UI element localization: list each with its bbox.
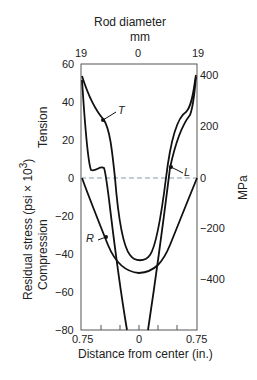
- series-label-l: L: [184, 166, 190, 178]
- ylabel-num: 10: [21, 168, 35, 185]
- y-tick-neg40: −40: [55, 248, 74, 260]
- y-tick-40: 40: [62, 96, 74, 108]
- ylabel-suffix: ): [21, 159, 35, 163]
- y-tick-neg20: −20: [55, 210, 74, 222]
- y-right-tick-neg200: −200: [200, 222, 225, 234]
- y-tick-60: 60: [62, 58, 74, 70]
- x-tick-center: 0: [136, 333, 142, 345]
- y-tick-20: 20: [62, 134, 74, 146]
- x-tick-left: 0.75: [72, 333, 93, 345]
- y-tick-neg60: −60: [55, 286, 74, 298]
- y-axis-title: Residual stress (psi × 103): [18, 159, 35, 300]
- series-label-r: R: [86, 232, 94, 244]
- series-label-t: T: [118, 104, 125, 116]
- plot-area: [0, 0, 257, 380]
- region-label-compression: Compression: [36, 219, 50, 290]
- y-tick-0: 0: [68, 172, 74, 184]
- y-right-tick-200: 200: [200, 120, 218, 132]
- y-right-axis-title: MPa: [236, 175, 250, 200]
- ylabel-times: ×: [21, 185, 35, 192]
- x-tick-right: 0.75: [186, 333, 207, 345]
- region-label-tension: Tension: [36, 107, 50, 148]
- y-tick-neg80: −80: [55, 324, 74, 336]
- ylabel-prefix: Residual stress (psi: [21, 192, 35, 300]
- x-axis-title: Distance from center (in.): [78, 347, 213, 361]
- y-right-tick-0: 0: [200, 172, 206, 184]
- y-right-tick-400: 400: [200, 69, 218, 81]
- y-right-tick-neg400: −400: [200, 273, 225, 285]
- ylabel-exp: 3: [18, 163, 29, 169]
